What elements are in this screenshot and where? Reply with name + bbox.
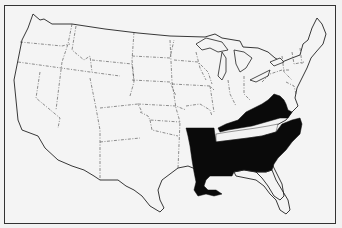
lake-huron [234,50,252,72]
us-map [0,0,342,228]
lake-michigan [218,52,226,80]
lake-superior [196,38,228,52]
highlighted-states [186,94,302,196]
lake-ontario [270,58,284,66]
state-florida [234,170,290,214]
lake-erie [250,70,270,82]
